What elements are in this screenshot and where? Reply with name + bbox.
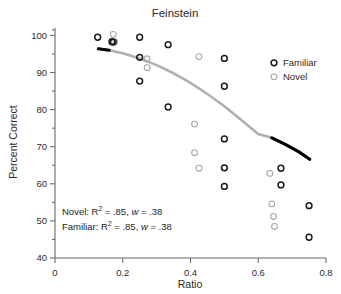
y-tick-90: 90 <box>36 67 47 78</box>
y-tick-100: 100 <box>31 30 47 41</box>
chart-figure: Feinstein Percent Correct Ratio 40506070… <box>0 0 341 294</box>
curve-black-segment-end <box>272 138 310 160</box>
data-point-familiar <box>95 34 101 40</box>
data-point-familiar <box>306 234 312 240</box>
data-point-novel <box>192 121 198 127</box>
y-tick-40: 40 <box>36 252 47 263</box>
data-point-novel <box>269 201 275 207</box>
legend-marker-novel <box>271 74 277 80</box>
y-tick-80: 80 <box>36 104 47 115</box>
x-tick-0.6: 0.6 <box>252 267 265 278</box>
data-point-familiar <box>306 203 312 209</box>
annotations: Novel: R2 = .85, w = .38Familiar: R2 = .… <box>62 205 172 232</box>
x-tick-0.2: 0.2 <box>116 267 129 278</box>
data-point-familiar <box>278 165 284 171</box>
y-tick-70: 70 <box>36 141 47 152</box>
annotation-familiar-stat: Familiar: R2 = .85, w = .38 <box>62 220 172 232</box>
data-point-novel <box>267 171 273 177</box>
annotation-novel-stat: Novel: R2 = .85, w = .38 <box>62 205 162 217</box>
data-point-familiar <box>165 104 171 110</box>
y-tick-labels: 405060708090100 <box>31 30 47 264</box>
y-tick-60: 60 <box>36 178 47 189</box>
x-tick-0: 0 <box>52 267 57 278</box>
scatter-plot: Feinstein Percent Correct Ratio 40506070… <box>0 0 341 294</box>
data-point-familiar <box>278 182 284 188</box>
data-point-novel <box>110 31 116 37</box>
data-point-familiar <box>221 136 227 142</box>
fit-curve <box>98 49 309 160</box>
x-tick-0.8: 0.8 <box>319 267 332 278</box>
data-point-familiar <box>221 184 227 190</box>
y-axis-label: Percent Correct <box>7 105 19 179</box>
legend: FamiliarNovel <box>271 57 317 82</box>
data-point-familiar <box>137 34 143 40</box>
data-point-novel <box>271 214 277 220</box>
data-point-novel <box>196 54 202 60</box>
data-point-novel <box>272 224 278 230</box>
y-tick-50: 50 <box>36 215 47 226</box>
legend-marker-familiar <box>271 60 277 66</box>
data-point-novel <box>192 150 198 156</box>
data-point-novel <box>196 165 202 171</box>
chart-title: Feinstein <box>152 7 199 19</box>
legend-label-familiar: Familiar <box>283 57 317 68</box>
data-point-familiar <box>221 83 227 89</box>
data-point-familiar <box>165 42 171 48</box>
data-point-familiar <box>221 56 227 62</box>
data-point-familiar <box>137 78 143 84</box>
x-tick-labels: 00.20.40.60.8 <box>52 267 332 278</box>
x-axis-label: Ratio <box>178 278 203 290</box>
legend-label-novel: Novel <box>283 71 307 82</box>
curve-black-segment-start <box>98 49 109 50</box>
data-point-novel <box>144 65 150 71</box>
data-point-familiar <box>221 165 227 171</box>
x-tick-0.4: 0.4 <box>184 267 197 278</box>
